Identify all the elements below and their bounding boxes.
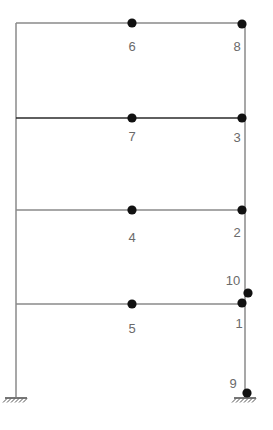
- node-label-1: 1: [235, 316, 242, 331]
- node-4: [127, 205, 136, 214]
- node-6: [127, 18, 136, 27]
- node-label-10: 10: [226, 273, 240, 288]
- node-10: [243, 288, 252, 297]
- node-9: [242, 388, 251, 397]
- node-labels: 12345678910: [128, 39, 242, 391]
- structural-frame-diagram: 12345678910: [0, 0, 273, 430]
- right-fixed-support: [232, 398, 256, 403]
- node-8: [237, 19, 246, 28]
- fixed-supports: [3, 398, 256, 403]
- node-7: [127, 113, 136, 122]
- node-label-4: 4: [128, 230, 135, 245]
- node-label-9: 9: [229, 376, 236, 391]
- node-label-2: 2: [233, 225, 240, 240]
- node-label-3: 3: [233, 130, 240, 145]
- node-label-8: 8: [233, 39, 240, 54]
- left-fixed-support: [3, 398, 27, 403]
- node-label-5: 5: [128, 321, 135, 336]
- node-1: [237, 298, 246, 307]
- node-2: [237, 205, 246, 214]
- node-5: [127, 299, 136, 308]
- node-label-6: 6: [128, 39, 135, 54]
- frame-nodes: [127, 18, 252, 397]
- node-label-7: 7: [128, 129, 135, 144]
- node-3: [237, 113, 246, 122]
